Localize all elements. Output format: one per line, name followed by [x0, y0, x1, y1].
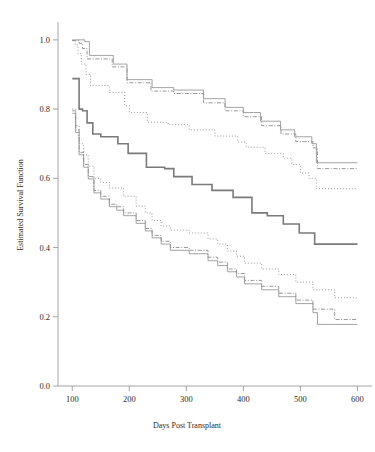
y-tick-label: 0.0 [39, 381, 50, 391]
y-tick-label: 1.0 [39, 35, 50, 45]
x-tick-label: 400 [237, 394, 250, 404]
x-tick-label: 300 [180, 394, 193, 404]
y-tick-label: 0.4 [39, 243, 50, 253]
chart-figure: 0.00.20.40.60.81.0100200300400500600 Day… [0, 0, 375, 452]
x-tick-label: 100 [66, 394, 79, 404]
y-tick-label: 0.6 [39, 173, 50, 183]
y-axis-title: Estimated Survival Function [16, 159, 25, 251]
x-tick-label: 500 [294, 394, 307, 404]
x-axis-title: Days Post Transplant [153, 421, 222, 430]
x-tick-label: 600 [351, 394, 364, 404]
y-tick-label: 0.2 [39, 312, 50, 322]
y-tick-label: 0.8 [39, 104, 50, 114]
plot-background [0, 0, 375, 452]
x-tick-label: 200 [123, 394, 136, 404]
survival-plot-svg: 0.00.20.40.60.81.0100200300400500600 Day… [0, 0, 375, 452]
